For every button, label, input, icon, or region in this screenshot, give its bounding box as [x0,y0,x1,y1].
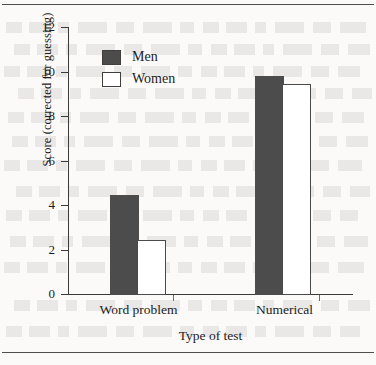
x-tick-label-word-problem: Word problem [66,302,211,318]
y-tick-label-0: 0 [15,287,55,300]
y-tick-label-2: 2 [15,243,55,256]
page-rule-bottom [2,352,374,353]
chart-legend: Men Women [102,46,222,90]
category-separator [173,295,174,301]
legend-label-women: Women [132,72,175,86]
bar-numerical-women [282,84,311,295]
legend-swatch-women-icon [102,72,121,87]
bar-numerical-men [255,76,284,295]
legend-item-men: Men [102,46,222,68]
y-tick-label-6: 6 [15,154,55,167]
bar-chart-figure: Score (corrected for guessing) 12 10 8 6… [0,6,376,351]
legend-label-men: Men [132,50,158,64]
x-tick-label-numerical: Numerical [212,302,357,318]
x-axis-title: Type of test [68,328,353,344]
legend-item-women: Women [102,68,222,90]
legend-swatch-men-icon [102,50,121,65]
y-tick-label-8: 8 [15,109,55,122]
bar-word-problem-women [137,240,166,295]
y-tick-label-4: 4 [15,198,55,211]
y-tick-label-12: 12 [15,20,55,33]
y-tick-label-10: 10 [15,65,55,78]
bar-word-problem-men [110,195,139,295]
page-rule-top [2,4,374,5]
category-separator [319,295,320,301]
